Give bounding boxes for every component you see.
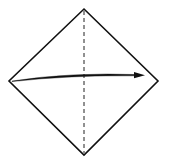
arrowhead-icon bbox=[134, 72, 145, 78]
fold-arrow-icon bbox=[12, 74, 140, 82]
origami-diagram bbox=[0, 0, 169, 162]
